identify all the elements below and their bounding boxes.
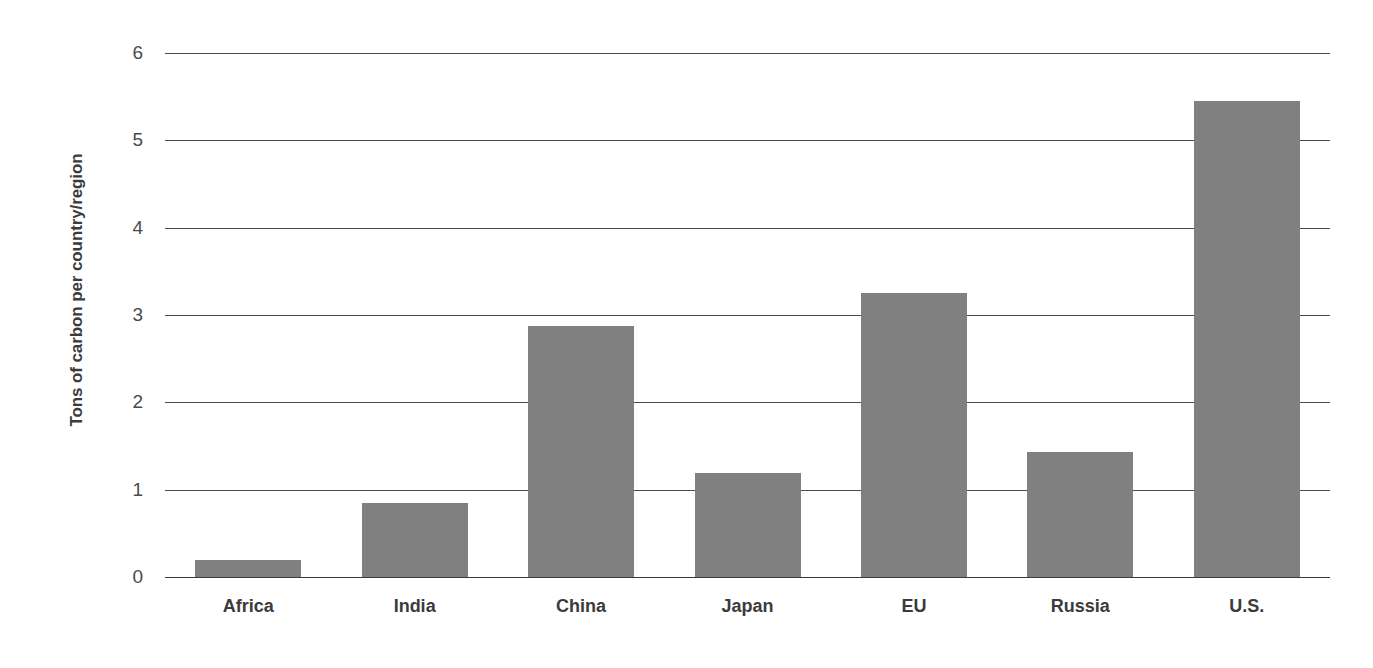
bar-russia: [1027, 452, 1133, 577]
x-axis-tick-label: Africa: [223, 596, 274, 617]
y-axis-tick-label: 2: [103, 391, 143, 413]
x-axis-tick-label: India: [394, 596, 436, 617]
y-axis-tick-label: 6: [103, 42, 143, 64]
gridline: [165, 140, 1330, 141]
x-axis-tick-label: China: [556, 596, 606, 617]
gridline: [165, 228, 1330, 229]
x-axis-tick-label: U.S.: [1229, 596, 1264, 617]
bar-u-s: [1194, 101, 1300, 577]
y-axis-tick-label: 5: [103, 129, 143, 151]
plot-area: [165, 53, 1330, 577]
y-axis-tick-label: 1: [103, 479, 143, 501]
y-axis-tick-label: 4: [103, 217, 143, 239]
y-axis-tick-label: 0: [103, 566, 143, 588]
gridline: [165, 577, 1330, 578]
y-axis-title: Tons of carbon per country/region: [62, 20, 92, 560]
gridline: [165, 315, 1330, 316]
x-axis-tick-label: Japan: [721, 596, 773, 617]
bar-japan: [695, 473, 801, 577]
bar-chart-figure: Tons of carbon per country/region 012345…: [0, 0, 1373, 668]
bar-africa: [195, 560, 301, 577]
bar-eu: [861, 293, 967, 577]
bar-china: [528, 326, 634, 577]
x-axis-tick-label: EU: [901, 596, 926, 617]
bar-india: [362, 503, 468, 577]
x-axis-tick-label: Russia: [1051, 596, 1110, 617]
gridline: [165, 53, 1330, 54]
gridline: [165, 402, 1330, 403]
y-axis-tick-label: 3: [103, 304, 143, 326]
